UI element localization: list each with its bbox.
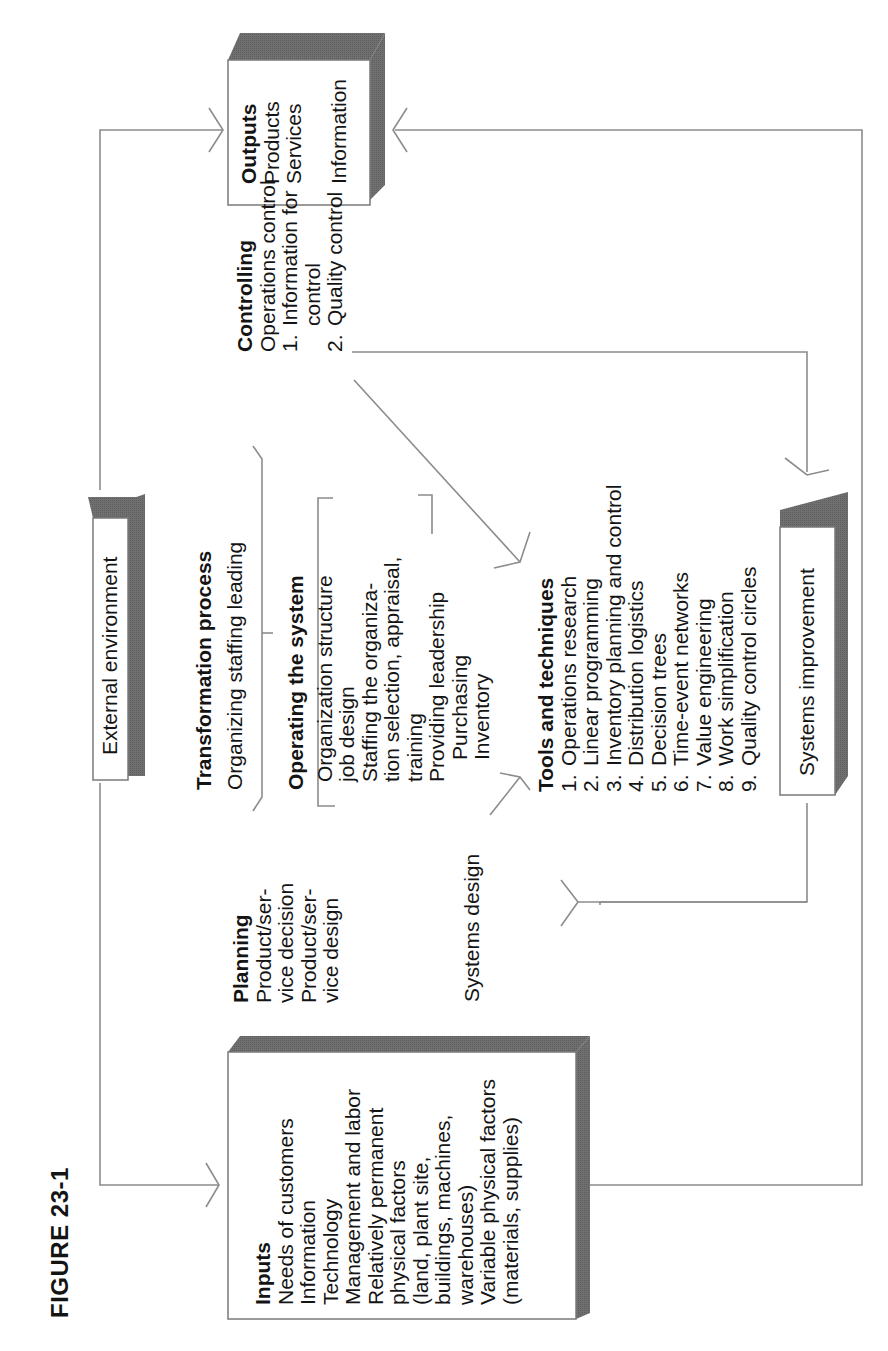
inputs-item: Information — [297, 1079, 320, 1305]
controlling-item: 2.Quality control — [324, 180, 347, 352]
planning-item: Product/ser- — [298, 883, 321, 1003]
tools-item: 7.Value engineering — [693, 485, 716, 792]
outputs-item: Services — [283, 79, 306, 184]
inputs-item: (materials, supplies) — [500, 1079, 523, 1305]
line-env-to-outputs — [100, 130, 222, 490]
controlling-item: control — [302, 180, 325, 352]
tools-item: 5.Decision trees — [648, 485, 671, 792]
operating-item: Providing leadership — [426, 557, 449, 790]
inputs-item: Relatively permanent — [365, 1079, 388, 1305]
operating-item: training — [404, 557, 427, 790]
inputs-item: warehouses) — [455, 1079, 478, 1305]
transformation-subtitle: Organizing staffing leading — [224, 542, 247, 790]
planning-block: Planning Product/ser- vice decision Prod… — [230, 883, 343, 1003]
tools-item: 4.Distribution logistics — [625, 485, 648, 792]
tools-item: 9.Quality control circles — [738, 485, 761, 792]
transformation-heading: Transformation process — [193, 542, 216, 790]
planning-heading: Planning — [230, 883, 253, 1003]
line-control-to-tools — [354, 380, 520, 562]
arrowhead-tools-top — [494, 532, 530, 568]
arrowhead-tools-bottom — [500, 773, 530, 790]
controlling-heading: Controlling — [234, 180, 257, 352]
tools-item: 6.Time-event networks — [670, 485, 693, 792]
line-control-to-improvement — [352, 352, 807, 472]
operating-item: Purchasing — [449, 557, 472, 790]
line-env-to-inputs — [100, 783, 218, 1185]
tools-block: Tools and techniques 1.Operations resear… — [535, 485, 760, 792]
line-improvement-to-design — [600, 803, 807, 905]
inputs-item: Technology — [320, 1079, 343, 1305]
arrowhead-design — [561, 880, 578, 926]
inputs-item: Variable physical factors — [477, 1079, 500, 1305]
operating-item: Organization structure — [314, 557, 337, 790]
tools-item: 2.Linear programming — [580, 485, 603, 792]
tools-item: 1.Operations research — [558, 485, 581, 792]
inputs-heading: Inputs — [252, 1079, 275, 1305]
tools-item: 8.Work simplification — [715, 485, 738, 792]
inputs-item: Management and labor — [342, 1079, 365, 1305]
transformation-block: Transformation process Organizing staffi… — [193, 542, 246, 790]
operating-item: Staffing the organiza- — [359, 557, 382, 790]
outputs-item: Information — [328, 79, 351, 184]
inputs-item: physical factors — [387, 1079, 410, 1305]
external-environment-label: External environment — [98, 557, 122, 755]
inputs-item: (land, plant site, — [410, 1079, 433, 1305]
transformation-brace — [253, 446, 262, 811]
inputs-item: Needs of customers — [275, 1079, 298, 1305]
systems-design-label: Systems design — [460, 854, 484, 1002]
operating-heading: Operating the system — [285, 557, 308, 790]
controlling-item: 1.Information for — [279, 180, 302, 352]
planning-item: vice decision — [275, 883, 298, 1003]
outputs-item — [306, 79, 328, 184]
operating-item: Inventory — [471, 557, 494, 790]
line-design-to-tools — [490, 777, 520, 815]
figure-label: FIGURE 23-1 — [46, 1167, 74, 1318]
inputs-item: buildings, machines, — [432, 1079, 455, 1305]
operating-item: tion selection, appraisal, — [381, 557, 404, 790]
operating-item: job design — [336, 557, 359, 790]
outputs-block: Outputs Products Services Information — [238, 79, 350, 184]
planning-item: vice design — [320, 883, 343, 1003]
inputs-block: Inputs Needs of customers Information Te… — [252, 1079, 522, 1305]
tools-item: 3.Inventory planning and control — [603, 485, 626, 792]
tools-heading: Tools and techniques — [535, 485, 558, 792]
operating-block: Operating the system Organization struct… — [285, 557, 494, 790]
outputs-item: Products — [261, 79, 284, 184]
controlling-item: Operations control — [257, 180, 280, 352]
controlling-block: Controlling Operations control 1.Informa… — [234, 180, 347, 352]
outputs-heading: Outputs — [238, 79, 261, 184]
systems-improvement-label: Systems improvement — [795, 568, 819, 776]
planning-item: Product/ser- — [253, 883, 276, 1003]
